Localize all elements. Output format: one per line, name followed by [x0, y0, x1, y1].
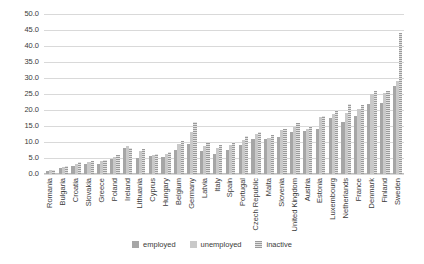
- x-tick-label: Estonia: [314, 176, 327, 242]
- legend-label: unemployed: [201, 240, 242, 249]
- y-tick-label: 45.0: [24, 26, 39, 34]
- bar-group: [288, 14, 301, 174]
- bar-group: [365, 14, 378, 174]
- plot-area: 0.05.010.015.020.025.030.035.040.045.050…: [44, 14, 404, 174]
- bar: [181, 141, 184, 174]
- bar-chart: 0.05.010.015.020.025.030.035.040.045.050…: [0, 0, 424, 264]
- bar: [271, 135, 274, 174]
- x-tick-label: Latvia: [198, 176, 211, 242]
- y-tick-label: 5.0: [29, 154, 39, 162]
- x-tick-label: France: [353, 176, 366, 242]
- bar: [232, 142, 235, 174]
- bar-group: [160, 14, 173, 174]
- legend-swatch: [132, 241, 139, 248]
- x-tick-label: Malta: [263, 176, 276, 242]
- bar-group: [173, 14, 186, 174]
- x-tick-label: Finland: [378, 176, 391, 242]
- bar: [155, 154, 158, 174]
- bar: [386, 91, 389, 174]
- bar: [348, 104, 351, 174]
- bar-group: [263, 14, 276, 174]
- bar: [309, 126, 312, 174]
- bar-group: [121, 14, 134, 174]
- bar: [335, 110, 338, 174]
- x-tick-label: Cyprus: [147, 176, 160, 242]
- bar: [374, 91, 377, 174]
- x-tick-label: Poland: [108, 176, 121, 242]
- bar-group: [378, 14, 391, 174]
- x-tick-label: Luxembourg: [327, 176, 340, 242]
- chart-legend: employedunemployedinactive: [0, 240, 424, 249]
- x-tick-label: Slovakia: [83, 176, 96, 242]
- x-tick-label: Netherlands: [340, 176, 353, 242]
- bar: [65, 166, 68, 174]
- y-tick-label: 20.0: [24, 106, 39, 114]
- bar-group: [391, 14, 404, 174]
- bar-group: [301, 14, 314, 174]
- y-tick-label: 40.0: [24, 42, 39, 50]
- bar: [142, 149, 145, 174]
- x-tick-label: Lithuania: [134, 176, 147, 242]
- bar: [78, 162, 81, 174]
- legend-label: inactive: [266, 240, 291, 249]
- bar-group: [250, 14, 263, 174]
- legend-swatch: [190, 241, 197, 248]
- bar-group: [70, 14, 83, 174]
- bar: [206, 143, 209, 174]
- bar: [296, 123, 299, 174]
- x-tick-label: Bulgaria: [57, 176, 70, 242]
- bar-group: [237, 14, 250, 174]
- bar-group: [44, 14, 57, 174]
- x-tick-label: Slovenia: [275, 176, 288, 242]
- y-tick-label: 25.0: [24, 90, 39, 98]
- gridline: [44, 174, 404, 175]
- x-tick-label: Hungary: [160, 176, 173, 242]
- bar: [91, 161, 94, 174]
- x-tick-label: Ireland: [121, 176, 134, 242]
- legend-swatch: [255, 241, 262, 248]
- x-tick-label: Croatia: [70, 176, 83, 242]
- bar: [193, 122, 196, 174]
- bar-group: [353, 14, 366, 174]
- bar: [245, 136, 248, 174]
- x-tick-label: Spain: [224, 176, 237, 242]
- y-tick-label: 50.0: [24, 10, 39, 18]
- bar-group: [147, 14, 160, 174]
- x-tick-label: Germany: [185, 176, 198, 242]
- x-tick-label: Greece: [95, 176, 108, 242]
- x-tick-label: Sweden: [391, 176, 404, 242]
- legend-label: employed: [143, 240, 176, 249]
- legend-item: unemployed: [190, 240, 242, 249]
- x-tick-label: Denmark: [365, 176, 378, 242]
- bar: [168, 152, 171, 174]
- bar: [399, 33, 402, 174]
- legend-item: employed: [132, 240, 176, 249]
- bar-group: [95, 14, 108, 174]
- bar-group: [185, 14, 198, 174]
- bar: [283, 129, 286, 174]
- y-tick-label: 10.0: [24, 138, 39, 146]
- y-tick-label: 30.0: [24, 74, 39, 82]
- x-tick-label: Romania: [44, 176, 57, 242]
- bar-groups: [44, 14, 404, 174]
- bar-group: [327, 14, 340, 174]
- bar-group: [57, 14, 70, 174]
- bar-group: [340, 14, 353, 174]
- x-tick-label: Italy: [211, 176, 224, 242]
- bar-group: [224, 14, 237, 174]
- bar: [219, 145, 222, 174]
- bar-group: [83, 14, 96, 174]
- bar-group: [108, 14, 121, 174]
- x-tick-label: United Kingdom: [288, 176, 301, 242]
- bar: [258, 132, 261, 174]
- bar-group: [275, 14, 288, 174]
- bar: [361, 105, 364, 174]
- bar: [52, 170, 55, 174]
- bar: [116, 155, 119, 174]
- bar: [129, 148, 132, 174]
- legend-item: inactive: [255, 240, 291, 249]
- y-tick-label: 35.0: [24, 58, 39, 66]
- y-tick-label: 15.0: [24, 122, 39, 130]
- bar-group: [211, 14, 224, 174]
- x-tick-label: Austria: [301, 176, 314, 242]
